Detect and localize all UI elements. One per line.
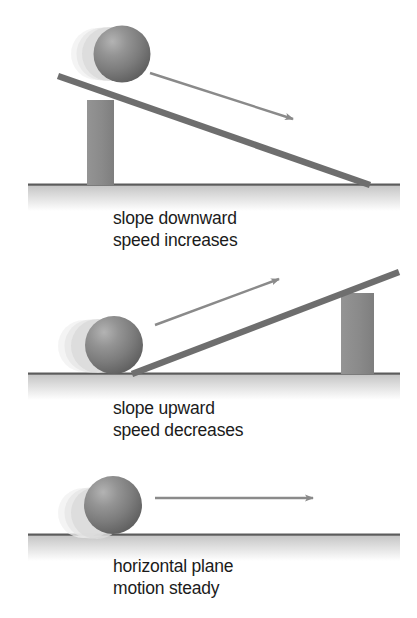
- rolling-ball-2: [85, 316, 143, 374]
- caption-1-line2: speed increases: [113, 230, 238, 250]
- support-block-1: [87, 100, 114, 185]
- panel-horizontal-plane: horizontal plane motion steady: [28, 476, 400, 598]
- caption-2-line1: slope upward: [113, 398, 215, 418]
- ground-plane-2: [28, 373, 400, 401]
- panel-slope-upward: slope upward speed decreases: [28, 272, 400, 440]
- physics-diagram-figure: slope downward speed increases: [0, 0, 417, 618]
- support-block-2: [341, 293, 374, 374]
- rolling-ball-1: [94, 26, 151, 83]
- caption-3-line1: horizontal plane: [113, 556, 233, 576]
- caption-3-line2: motion steady: [113, 578, 220, 598]
- rolling-ball-3: [84, 476, 142, 534]
- caption-1-line1: slope downward: [113, 208, 237, 228]
- diagram-canvas: slope downward speed increases: [0, 0, 417, 618]
- ground-plane-1: [28, 184, 400, 212]
- panel-slope-downward: slope downward speed increases: [28, 26, 400, 251]
- caption-3: horizontal plane motion steady: [113, 556, 233, 598]
- motion-arrow-2: [155, 279, 279, 325]
- motion-arrow-1: [150, 73, 293, 119]
- caption-2-line2: speed decreases: [113, 420, 244, 440]
- caption-1: slope downward speed increases: [113, 208, 238, 250]
- caption-2: slope upward speed decreases: [113, 398, 244, 440]
